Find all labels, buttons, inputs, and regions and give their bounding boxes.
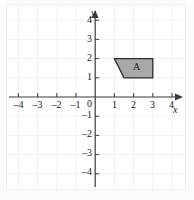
x-tick-label-1: 1 — [106, 99, 123, 110]
x-tick-label-4: 4 — [163, 99, 180, 110]
coordinate-plane — [7, 5, 185, 189]
y-tick-label-1: 1 — [79, 71, 92, 82]
y-tick-label-2: 2 — [79, 52, 92, 63]
figure-container: y x –4 –3 –2 –1 1 2 3 4 4 3 2 1 –1 –2 –3… — [0, 0, 194, 200]
y-tick-label-neg3: –3 — [75, 147, 92, 158]
y-tick-label-neg1: –1 — [75, 109, 92, 120]
shape-label-a: A — [133, 61, 140, 72]
x-tick-label-3: 3 — [144, 99, 161, 110]
x-tick-label-neg4: –4 — [10, 99, 27, 110]
y-tick-label-3: 3 — [79, 33, 92, 44]
figure-frame: y x –4 –3 –2 –1 1 2 3 4 4 3 2 1 –1 –2 –3… — [6, 4, 186, 190]
origin-label: 0 — [87, 98, 97, 109]
y-tick-label-neg4: –4 — [75, 166, 92, 177]
x-tick-label-neg2: –2 — [48, 99, 65, 110]
x-tick-label-2: 2 — [125, 99, 142, 110]
y-tick-label-4: 4 — [79, 14, 92, 25]
y-tick-label-neg2: –2 — [75, 128, 92, 139]
x-tick-label-neg3: –3 — [29, 99, 46, 110]
